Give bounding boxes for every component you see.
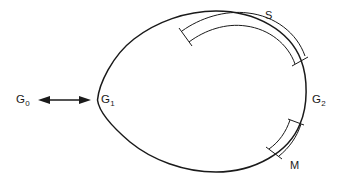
label-g0-subscript: 0 [25, 99, 29, 108]
arc-band-m-cap-end [266, 147, 282, 159]
label-g2: G2 [312, 94, 326, 108]
arrow-head-right [79, 96, 91, 104]
label-g1-base: G [101, 93, 110, 105]
figure-canvas: G0 G1 G2 S M [0, 0, 340, 185]
label-s: S [265, 10, 273, 21]
arc-band-m [266, 119, 304, 159]
diagram-svg [0, 0, 340, 185]
label-g1-subscript: 1 [110, 99, 114, 108]
label-g0-base: G [16, 93, 25, 105]
label-g0: G0 [16, 94, 30, 108]
label-g2-subscript: 2 [321, 99, 325, 108]
label-g1: G1 [101, 94, 115, 108]
label-m: M [290, 160, 299, 171]
label-g2-base: G [312, 93, 321, 105]
teardrop-outline [98, 11, 307, 172]
arc-band-s-cap-start [179, 28, 192, 46]
arrow-head-left [38, 96, 50, 104]
g0-g1-double-arrow [38, 96, 91, 104]
